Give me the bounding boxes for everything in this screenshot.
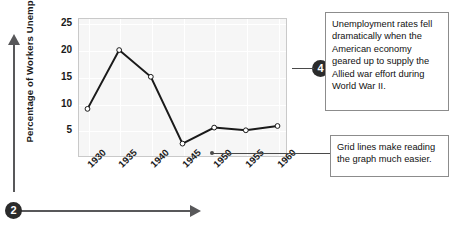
series-polyline — [88, 50, 278, 144]
data-point-marker[interactable] — [180, 141, 185, 146]
y-axis-tick-label: 25 — [46, 17, 72, 28]
callout-box-grid-lines: Grid lines make reading the graph much e… — [330, 135, 449, 177]
data-point-marker[interactable] — [117, 48, 122, 53]
y-axis-tick-label: 20 — [46, 44, 72, 55]
y-axis-label: Percentage of Workers Unemployed — [24, 0, 35, 143]
y-axis-tick-label: 5 — [46, 124, 72, 135]
callout-grid-leader-line — [212, 153, 330, 154]
series-line — [78, 18, 287, 157]
callout-4-leader-line — [292, 68, 314, 69]
data-point-marker[interactable] — [148, 74, 153, 79]
horizontal-axis-arrow — [14, 210, 194, 212]
y-axis-tick-label: 15 — [46, 71, 72, 82]
callout-grid-leader-dot-icon — [210, 151, 214, 155]
callout-box-war-effort: Unemployment rates fell dramatically whe… — [325, 12, 449, 111]
chart: Percentage of Workers Unemployed 5101520… — [0, 0, 320, 210]
data-point-marker[interactable] — [275, 124, 280, 129]
data-point-marker[interactable] — [85, 106, 90, 111]
screenshot-stage: 2 4 Percentage of Workers Unemployed 510… — [0, 0, 454, 238]
data-point-marker[interactable] — [243, 128, 248, 133]
data-point-marker[interactable] — [212, 125, 217, 130]
y-axis-tick-label: 10 — [46, 98, 72, 109]
